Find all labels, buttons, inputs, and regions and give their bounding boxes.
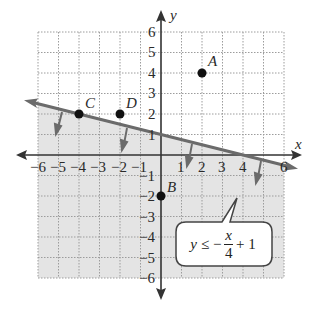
svg-text:C: C	[85, 95, 96, 111]
svg-text:D: D	[125, 95, 137, 111]
fraction-denominator: 4	[225, 245, 233, 261]
fraction-numerator: x	[224, 228, 233, 245]
x-axis-label: x	[294, 136, 302, 152]
svg-text:B: B	[167, 179, 176, 195]
inequality-callout: y ≤ − x 4 + 1	[176, 222, 270, 266]
svg-text:−2: −2	[111, 159, 127, 175]
svg-text:−1: −1	[139, 168, 155, 184]
svg-text:4: 4	[239, 159, 247, 175]
svg-text:−5: −5	[139, 250, 155, 266]
fraction: x 4	[224, 228, 233, 261]
inequality-lhs: y	[190, 236, 197, 253]
point-A: A	[198, 53, 219, 78]
inequality-rhs: + 1	[236, 236, 256, 253]
svg-text:3: 3	[218, 159, 226, 175]
svg-text:−6: −6	[139, 270, 155, 286]
inequality-operator: ≤ −	[201, 236, 221, 253]
svg-text:1: 1	[177, 159, 185, 175]
svg-text:−4: −4	[139, 229, 155, 245]
svg-text:−5: −5	[50, 159, 66, 175]
svg-text:−4: −4	[70, 159, 86, 175]
svg-text:2: 2	[198, 159, 206, 175]
svg-text:6: 6	[148, 24, 156, 40]
svg-text:−3: −3	[90, 159, 106, 175]
svg-text:2: 2	[148, 106, 156, 122]
svg-text:4: 4	[148, 65, 156, 81]
svg-text:5: 5	[148, 44, 156, 60]
svg-text:−3: −3	[139, 209, 155, 225]
svg-text:3: 3	[148, 85, 156, 101]
svg-text:A: A	[207, 53, 218, 69]
svg-text:−6: −6	[30, 159, 46, 175]
svg-text:−2: −2	[139, 188, 155, 204]
point-D: D	[116, 95, 138, 119]
y-axis-label: y	[168, 7, 177, 23]
svg-text:6: 6	[280, 159, 288, 175]
svg-text:1: 1	[148, 127, 156, 143]
